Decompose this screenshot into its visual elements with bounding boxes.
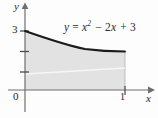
plot-canvas [0, 0, 158, 118]
shaded-area-region [25, 31, 125, 90]
origin-label: 0 [13, 91, 19, 102]
equation-equals: = [72, 21, 79, 33]
equation-var2: x [111, 21, 116, 33]
figure-container: y x 3 0 1 y=x2−2x+3 [0, 0, 158, 118]
equation-lhs: y [64, 21, 69, 33]
x-tick-label-1: 1 [120, 92, 125, 102]
y-axis-label: y [14, 1, 19, 12]
y-axis-arrowhead-icon [22, 3, 29, 10]
equation-exponent: 2 [87, 19, 91, 28]
equation-minus: − [95, 21, 102, 33]
y-tick-label-3: 3 [12, 24, 18, 35]
equation-constant: 3 [130, 21, 136, 33]
x-axis-label: x [146, 93, 151, 104]
curve-equation-label: y=x2−2x+3 [64, 20, 136, 33]
equation-plus: + [120, 21, 127, 33]
